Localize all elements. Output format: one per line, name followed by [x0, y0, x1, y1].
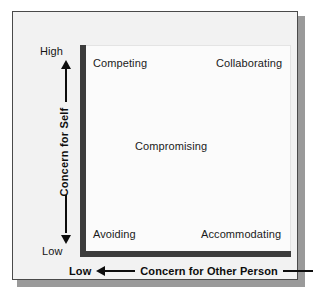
quadrant-label-competing: Competing [93, 57, 147, 69]
x-axis-low-label: Low [69, 265, 91, 277]
arrow-down-icon [61, 235, 71, 244]
arrow-right-icon [283, 266, 313, 276]
quadrant-label-collaborating: Collaborating [216, 57, 282, 69]
x-axis-title: Concern for Other Person [140, 265, 277, 277]
y-axis-line-upper [65, 68, 67, 102]
x-axis-bar [80, 251, 291, 257]
x-axis-caption-row: Low Concern for Other Person High [69, 263, 301, 279]
y-axis-low-label: Low [42, 245, 62, 257]
figure-card: High Low Concern for Self Competing Coll… [12, 11, 298, 280]
quadrant-label-accommodating: Accommodating [201, 228, 281, 240]
quadrant-label-avoiding: Avoiding [93, 228, 136, 240]
y-axis-line-lower [65, 195, 67, 233]
quadrant-label-compromising: Compromising [135, 140, 207, 152]
y-axis-bar [80, 45, 86, 257]
y-axis-title: Concern for Self [58, 108, 70, 197]
arrow-left-icon [96, 266, 135, 276]
conflict-handling-styles-figure: High Low Concern for Self Competing Coll… [0, 0, 313, 301]
y-axis-high-label: High [40, 45, 63, 57]
y-axis-direction-group: Concern for Self [53, 60, 75, 244]
